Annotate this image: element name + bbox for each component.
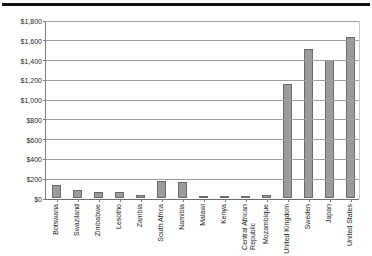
bar[interactable] xyxy=(94,192,103,198)
bar-slot xyxy=(340,21,361,199)
y-axis-tick-label: $200 xyxy=(26,176,42,183)
bar-slot xyxy=(277,21,298,199)
bar[interactable] xyxy=(262,195,271,198)
gridline xyxy=(46,40,359,41)
bar-slot xyxy=(193,21,214,199)
bar-slot xyxy=(214,21,235,199)
y-axis-tick-label: $1,200 xyxy=(21,77,42,84)
y-axis-tick-mark xyxy=(43,139,46,140)
x-axis-tick-label: Namibia xyxy=(178,204,186,230)
plot-area: $0$200$400$600$800$1,000$1,200$1,400$1,6… xyxy=(45,21,360,199)
x-axis-tick-label: Zambia xyxy=(136,204,144,227)
bar[interactable] xyxy=(178,182,187,198)
gridline xyxy=(46,80,359,81)
bar[interactable] xyxy=(73,190,82,198)
bar-slot xyxy=(67,21,88,199)
x-axis-tick-label: South Africa xyxy=(157,204,165,242)
x-axis-tick-label: Mozambique xyxy=(262,204,270,244)
y-axis-tick-label: $1,400 xyxy=(21,57,42,64)
x-axis-tick-label: United Kingdom xyxy=(283,204,291,254)
bar-slot xyxy=(151,21,172,199)
bar-slot xyxy=(46,21,67,199)
gridline xyxy=(46,119,359,120)
bar-chart: $0$200$400$600$800$1,000$1,200$1,400$1,6… xyxy=(0,10,372,256)
bar-slot xyxy=(319,21,340,199)
y-axis-tick-mark xyxy=(43,80,46,81)
y-axis-tick-mark xyxy=(43,40,46,41)
bar-series xyxy=(46,21,359,199)
bar[interactable] xyxy=(52,185,61,198)
bar[interactable] xyxy=(283,84,292,198)
bar[interactable] xyxy=(115,192,124,198)
x-axis-tick-label: Botswana xyxy=(52,204,60,235)
y-axis-tick-label: $800 xyxy=(26,116,42,123)
x-axis-tick-label: Kenya xyxy=(220,204,228,224)
gridline xyxy=(46,21,359,22)
gridline xyxy=(46,159,359,160)
y-axis-tick-label: $1,600 xyxy=(21,37,42,44)
bar[interactable] xyxy=(157,181,166,198)
bar-slot xyxy=(130,21,151,199)
bar-slot xyxy=(235,21,256,199)
bar-slot xyxy=(298,21,319,199)
header-rule xyxy=(2,3,370,6)
bar-slot xyxy=(109,21,130,199)
y-axis-tick-label: $400 xyxy=(26,156,42,163)
x-axis-tick-label: Swaziland xyxy=(73,204,81,236)
gridline xyxy=(46,139,359,140)
x-axis-tick-label: Central African Republic xyxy=(241,204,256,250)
gridline xyxy=(46,60,359,61)
x-axis-tick-label: Malawi xyxy=(199,204,207,226)
y-axis-tick-label: $0 xyxy=(34,196,42,203)
x-axis-tick-label: Sweden xyxy=(304,204,312,229)
y-axis-tick-mark xyxy=(43,21,46,22)
bar-slot xyxy=(256,21,277,199)
x-axis-tick-label: Lesotho xyxy=(115,204,123,229)
bar-slot xyxy=(172,21,193,199)
y-axis-tick-label: $600 xyxy=(26,136,42,143)
gridline xyxy=(46,179,359,180)
y-axis-tick-mark xyxy=(43,100,46,101)
x-axis-tick-label: United States xyxy=(346,204,354,246)
x-axis-tick-label: Japan xyxy=(325,204,333,223)
x-axis-labels: BotswanaSwazilandZimbabweLesothoZambiaSo… xyxy=(45,200,360,256)
y-axis-tick-mark xyxy=(43,159,46,160)
chart-figure: $0$200$400$600$800$1,000$1,200$1,400$1,6… xyxy=(0,0,372,256)
y-axis-tick-label: $1,800 xyxy=(21,18,42,25)
y-axis-tick-mark xyxy=(43,60,46,61)
bar-slot xyxy=(88,21,109,199)
gridline xyxy=(46,100,359,101)
y-axis-tick-mark xyxy=(43,119,46,120)
y-axis-tick-mark xyxy=(43,179,46,180)
y-axis-tick-label: $1,000 xyxy=(21,97,42,104)
bar[interactable] xyxy=(304,49,313,198)
x-axis-tick-label: Zimbabwe xyxy=(94,204,102,236)
